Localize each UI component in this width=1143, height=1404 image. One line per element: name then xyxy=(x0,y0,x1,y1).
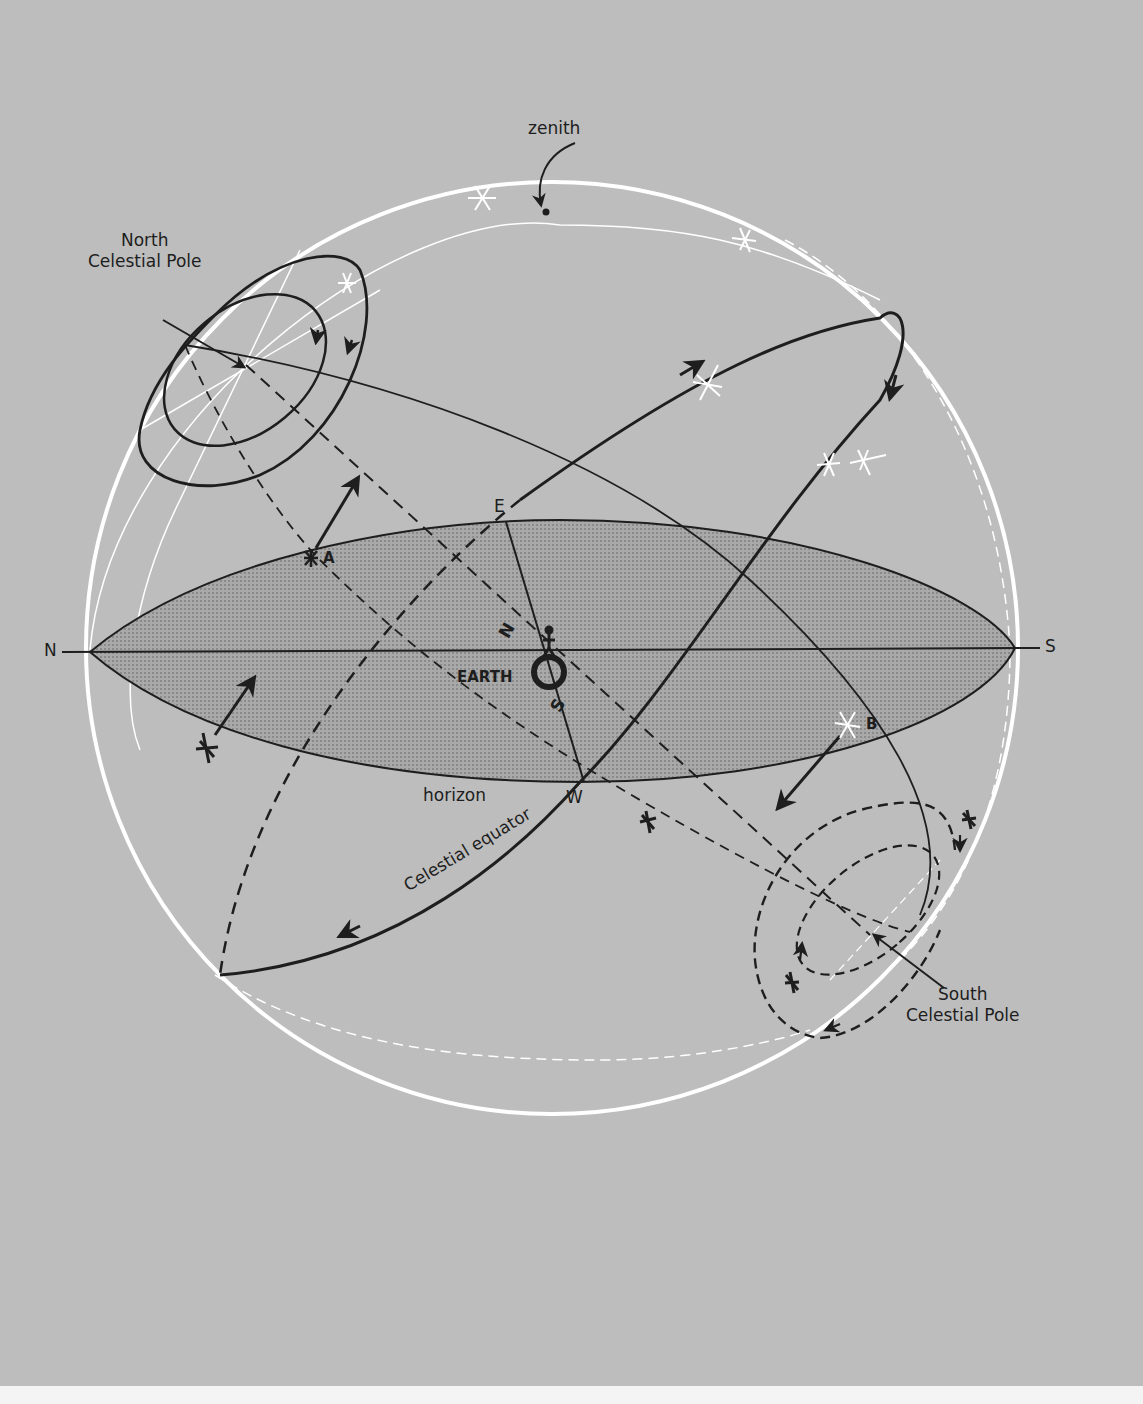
east-point-label: E xyxy=(494,496,505,517)
scp-pointer xyxy=(874,935,944,988)
white-star-icon-ncp xyxy=(338,273,356,293)
zenith-pointer xyxy=(540,143,575,205)
ncp-arrow-1 xyxy=(316,330,318,342)
page-bottom-margin xyxy=(0,1386,1143,1404)
diagram-canvas: zenith North Celestial Pole South Celest… xyxy=(0,0,1143,1386)
white-dashed-lower xyxy=(215,975,810,1060)
star-icon-lower-left xyxy=(196,733,218,763)
star-icon-a xyxy=(304,549,318,567)
scp-arrow-2 xyxy=(800,944,802,960)
star-icon-below-w xyxy=(640,811,656,833)
scp-circle-inner xyxy=(774,821,962,999)
star-a-label: A xyxy=(323,548,335,569)
white-star-icon-right-2 xyxy=(850,450,886,475)
white-star-icon-equator xyxy=(693,365,722,400)
north-celestial-pole-label: North Celestial Pole xyxy=(88,230,202,272)
zenith-point xyxy=(543,209,550,216)
earth-label: EARTH xyxy=(457,667,513,688)
horizon-label: horizon xyxy=(423,785,486,806)
equator-arrow-1 xyxy=(680,362,702,375)
star-a-arrow xyxy=(316,478,358,548)
south-celestial-pole-label: South Celestial Pole xyxy=(906,984,1020,1026)
north-point-label: N xyxy=(44,640,57,661)
star-icon-scp-right xyxy=(962,810,976,829)
south-point-label: S xyxy=(1045,636,1056,657)
zenith-label: zenith xyxy=(528,118,580,139)
ncp-arrow-2 xyxy=(348,340,352,352)
star-icon-scp-left xyxy=(785,972,799,993)
west-point-label: W xyxy=(566,787,583,808)
celestial-sphere-diagram xyxy=(0,0,1143,1386)
star-b-label: B xyxy=(866,714,877,735)
equator-arrow-3 xyxy=(340,926,360,936)
white-star-icon-right-1 xyxy=(817,453,840,476)
